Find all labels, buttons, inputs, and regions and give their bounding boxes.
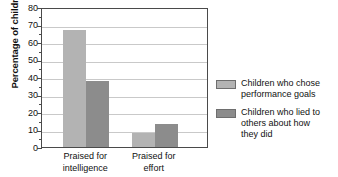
legend-label-line: performance goals [241,89,316,99]
plot-area [41,8,208,148]
legend-swatch-icon [216,109,236,118]
legend-label-line: Children who chose [241,78,320,88]
legend-item-series-b: Children who lied to others about how th… [216,107,338,140]
legend-label-series-a: Children who chose performance goals [241,78,335,100]
legend-label-series-b: Children who lied to others about how th… [241,107,335,140]
legend-label-line: Children who lied to [241,107,320,117]
x-axis-label: Praised foreffort [114,151,194,174]
legend: Children who chose performance goals Chi… [216,78,338,147]
x-axis-label-line: Praised for [132,151,176,161]
x-axis-label-line: intelligence [63,163,108,173]
bars-group [42,9,207,147]
bar-series-a [63,30,86,147]
legend-swatch-icon [216,80,236,89]
bar-chart-figure: Percentage of children 80 70 60 50 40 30… [0,0,338,177]
bar-series-a [132,133,155,147]
legend-item-series-a: Children who chose performance goals [216,78,338,100]
legend-label-line: they did [241,129,273,139]
legend-label-line: others about how [241,118,310,128]
x-axis-label-line: Praised for [63,151,107,161]
x-axis-label-line: effort [144,163,164,173]
x-axis-category-labels: Praised forintelligencePraised foreffort [41,151,208,177]
bar-series-b [86,81,109,148]
bar-series-b [155,124,178,147]
y-tick-mark [37,148,42,149]
